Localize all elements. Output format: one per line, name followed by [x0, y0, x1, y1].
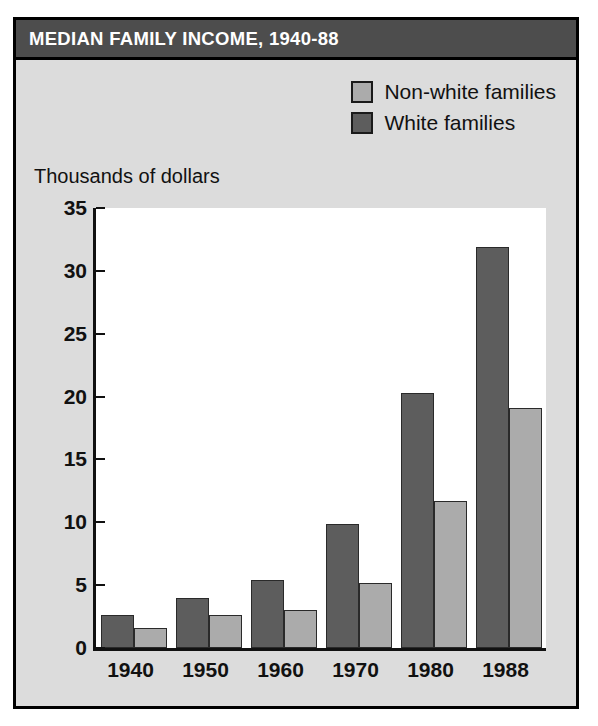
y-axis-caption: Thousands of dollars [34, 165, 220, 188]
bar-white-families[interactable] [326, 524, 359, 648]
y-axis-tick-label: 30 [64, 258, 96, 282]
legend-item-non-white: Non-white families [351, 80, 556, 104]
y-axis-tick-mark [96, 521, 105, 523]
bars-container [96, 208, 546, 648]
legend-item-white: White families [351, 111, 515, 135]
y-axis-tick-mark [96, 396, 105, 398]
bar-non-white-families[interactable] [509, 408, 542, 648]
bar-group [326, 208, 392, 648]
x-axis-label: 1940 [94, 658, 168, 682]
bar-non-white-families[interactable] [359, 583, 392, 648]
legend-label-white: White families [384, 111, 515, 135]
y-axis-tick-label: 0 [75, 636, 96, 660]
chart-figure: MEDIAN FAMILY INCOME, 1940-88 Non-white … [13, 17, 579, 709]
y-axis-tick-mark [96, 584, 105, 586]
bar-group [176, 208, 242, 648]
y-axis-tick-label: 25 [64, 321, 96, 345]
y-axis-tick-mark [96, 333, 105, 335]
bar-white-families[interactable] [251, 580, 284, 648]
title-bar: MEDIAN FAMILY INCOME, 1940-88 [16, 20, 576, 60]
bar-white-families[interactable] [401, 393, 434, 648]
bar-white-families[interactable] [476, 247, 509, 648]
page-title: MEDIAN FAMILY INCOME, 1940-88 [16, 28, 339, 50]
legend-swatch-white-icon [351, 112, 373, 134]
y-axis-tick-mark [96, 270, 105, 272]
x-axis-labels: 194019501960197019801988 [93, 658, 543, 682]
chart-legend: Non-white families White families [351, 80, 556, 135]
bar-non-white-families[interactable] [284, 610, 317, 648]
plot-wrapper: 05101520253035 194019501960197019801988 [34, 200, 564, 695]
legend-swatch-non-white-icon [351, 81, 373, 103]
y-axis-tick-label: 10 [64, 510, 96, 534]
bar-group [251, 208, 317, 648]
bar-white-families[interactable] [101, 615, 134, 648]
bar-group [101, 208, 167, 648]
x-axis-label: 1988 [469, 658, 543, 682]
x-axis-label: 1970 [319, 658, 393, 682]
bar-group [401, 208, 467, 648]
y-axis-tick-mark [96, 458, 105, 460]
x-axis-label: 1980 [394, 658, 468, 682]
y-axis-tick-label: 5 [75, 573, 96, 597]
x-axis-label: 1950 [169, 658, 243, 682]
bar-non-white-families[interactable] [134, 628, 167, 648]
y-axis-tick-label: 15 [64, 447, 96, 471]
bar-white-families[interactable] [176, 598, 209, 648]
plot-area: 05101520253035 [93, 208, 546, 651]
y-axis-tick-mark [96, 647, 105, 649]
legend-label-non-white: Non-white families [384, 80, 556, 104]
x-axis-label: 1960 [244, 658, 318, 682]
y-axis-tick-label: 35 [64, 196, 96, 220]
y-axis-tick-mark [96, 207, 105, 209]
bar-non-white-families[interactable] [434, 501, 467, 648]
y-axis-tick-label: 20 [64, 384, 96, 408]
bar-group [476, 208, 542, 648]
bar-non-white-families[interactable] [209, 615, 242, 648]
